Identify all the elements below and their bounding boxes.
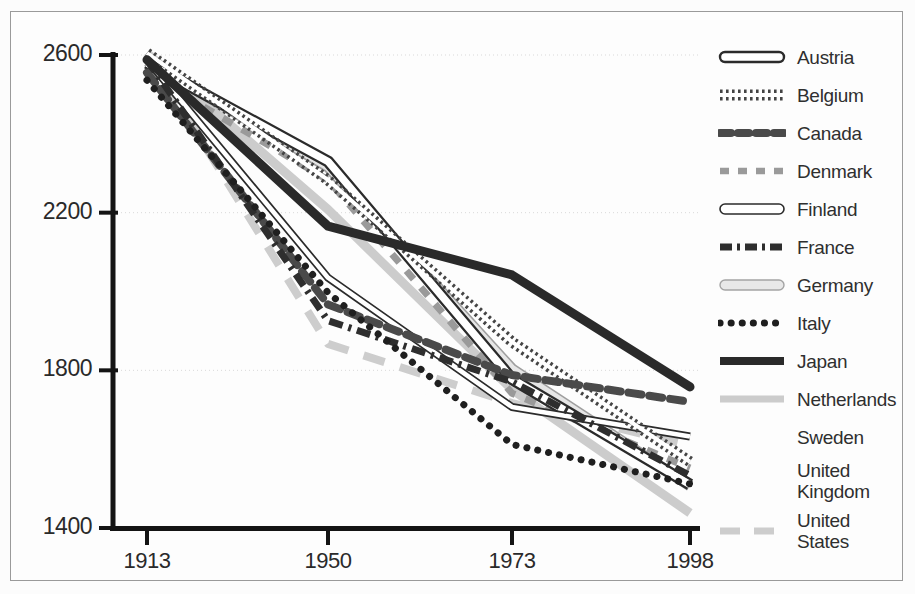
- legend-item[interactable]: Italy: [718, 304, 908, 342]
- legend-swatch-belgium: [718, 87, 786, 103]
- y-axis-label: 2200: [0, 198, 92, 225]
- y-axis-label: 1800: [0, 355, 92, 382]
- x-axis-label: 1950: [263, 548, 393, 574]
- legend-label: Sweden: [797, 427, 864, 448]
- legend-label: Denmark: [797, 161, 872, 182]
- legend-swatch-finland: [718, 201, 786, 217]
- legend-swatch-netherlands: [718, 391, 786, 407]
- legend-item[interactable]: Austria: [718, 38, 908, 76]
- legend-label: Austria: [797, 47, 854, 68]
- y-axis-label: 2600: [0, 40, 92, 67]
- legend-swatch-sweden: [718, 429, 786, 445]
- x-axis-label: 1973: [447, 548, 577, 574]
- legend-item[interactable]: Sweden: [718, 418, 908, 456]
- legend-label: UnitedKingdom: [797, 460, 870, 502]
- legend-item[interactable]: Netherlands: [718, 380, 908, 418]
- x-axis-label: 1913: [82, 548, 212, 574]
- legend-item[interactable]: Belgium: [718, 76, 908, 114]
- legend-swatch-italy: [718, 315, 786, 331]
- legend-swatch-france: [718, 239, 786, 255]
- legend-item[interactable]: France: [718, 228, 908, 266]
- legend-label: Japan: [797, 351, 847, 372]
- legend-label: Netherlands: [797, 389, 896, 410]
- legend-item[interactable]: UnitedKingdom: [718, 456, 908, 506]
- legend-swatch-united-kingdom: [718, 473, 786, 489]
- legend-swatch-denmark: [718, 163, 786, 179]
- legend-label: Italy: [797, 313, 830, 334]
- series-layer: [147, 46, 690, 513]
- legend-label: Germany: [797, 275, 873, 296]
- legend-item[interactable]: UnitedStates: [718, 506, 908, 556]
- legend-swatch-canada: [718, 125, 786, 141]
- chart-page: 2600220018001400 1913195019731998 Austri…: [0, 0, 915, 594]
- legend-item[interactable]: Japan: [718, 342, 908, 380]
- legend-item[interactable]: Canada: [718, 114, 908, 152]
- legend-item[interactable]: Finland: [718, 190, 908, 228]
- y-axis-label: 1400: [0, 513, 92, 540]
- legend-swatch-austria: [718, 49, 786, 65]
- legend-label: Canada: [797, 123, 862, 144]
- legend-label: Belgium: [797, 85, 864, 106]
- legend-item[interactable]: Denmark: [718, 152, 908, 190]
- legend-item[interactable]: Germany: [718, 266, 908, 304]
- legend-swatch-germany: [718, 277, 786, 293]
- legend-label: Finland: [797, 199, 857, 220]
- legend-swatch-united-states: [718, 523, 786, 539]
- legend-swatch-japan: [718, 353, 786, 369]
- legend-label: UnitedStates: [797, 510, 850, 552]
- legend-label: France: [797, 237, 854, 258]
- chart-legend: AustriaBelgiumCanadaDenmarkFinlandFrance…: [718, 38, 908, 556]
